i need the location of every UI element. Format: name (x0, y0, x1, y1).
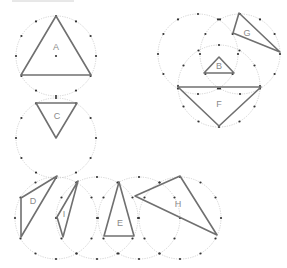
center-dot (55, 55, 57, 57)
point-dot (217, 88, 219, 90)
point-dot (157, 53, 159, 55)
point-dot (60, 237, 62, 239)
point-dot (138, 258, 140, 260)
point-dot (90, 157, 92, 159)
triangle-label-c: C (54, 111, 61, 121)
point-dot (20, 157, 22, 159)
point-dot (199, 53, 201, 55)
point-dot (259, 18, 261, 20)
point-dot (197, 49, 199, 51)
point-dot (219, 18, 221, 20)
triangle-label-i: I (63, 209, 66, 219)
triangle-label-e: E (117, 218, 123, 228)
point-dot (75, 20, 77, 22)
point-dot (158, 252, 160, 254)
point-dot (55, 258, 57, 260)
point-dot (55, 97, 57, 99)
triangle-i (57, 181, 78, 237)
point-dot (158, 181, 160, 183)
point-dot (274, 33, 276, 35)
point-dot (177, 18, 179, 20)
point-dot (182, 105, 184, 107)
point-dot (253, 64, 255, 66)
point-dot (143, 237, 145, 239)
triangle-d (21, 176, 57, 237)
point-dot (35, 172, 37, 174)
point-dot (34, 181, 36, 183)
point-dot (15, 55, 17, 57)
point-dot (96, 176, 98, 178)
triangle-g (233, 13, 280, 52)
point-dot (197, 13, 199, 15)
point-dot (182, 64, 184, 66)
point-dot (199, 181, 201, 183)
point-dot (138, 217, 140, 219)
point-dot (253, 105, 255, 107)
point-dot (90, 35, 92, 37)
point-dot (75, 172, 77, 174)
point-dot (14, 217, 16, 219)
point-dot (239, 93, 241, 95)
point-dot (60, 196, 62, 198)
point-dot (97, 217, 99, 219)
point-dot (143, 196, 145, 198)
point-dot (179, 258, 181, 260)
point-dot (204, 33, 206, 35)
point-dot (162, 33, 164, 35)
point-dot (162, 73, 164, 75)
point-dot (35, 20, 37, 22)
triangles (21, 13, 280, 237)
point-dot (34, 252, 36, 254)
point-dot (131, 196, 133, 198)
point-dot (131, 237, 133, 239)
point-dot (173, 237, 175, 239)
point-dot (238, 120, 240, 122)
point-dot (95, 137, 97, 139)
point-dot (219, 88, 221, 90)
point-dot (102, 196, 104, 198)
triangle-label-a: A (53, 42, 59, 52)
circle-cL (158, 14, 238, 94)
point-dot (90, 196, 92, 198)
point-dot (20, 35, 22, 37)
point-dot (75, 252, 77, 254)
point-dot (15, 137, 17, 139)
point-dot (138, 176, 140, 178)
point-dot (279, 53, 281, 55)
point-dot (274, 73, 276, 75)
triangle-label-f: F (216, 99, 222, 109)
point-dot (214, 196, 216, 198)
triangle-label-d: D (30, 196, 37, 206)
point-dot (75, 90, 77, 92)
point-dot (197, 120, 199, 122)
point-dot (90, 117, 92, 119)
diagram-canvas: ABCDEFGHI (0, 0, 287, 268)
point-dot (199, 252, 201, 254)
point-dot (55, 95, 57, 97)
point-dot (117, 252, 119, 254)
triangle-label-g: G (243, 28, 250, 38)
point-dot (197, 93, 199, 95)
point-dot (217, 18, 219, 20)
point-dot (96, 258, 98, 260)
point-dot (220, 217, 222, 219)
point-dot (237, 53, 239, 55)
point-dot (102, 237, 104, 239)
point-dot (20, 117, 22, 119)
circle-cG (200, 14, 280, 94)
point-dot (90, 237, 92, 239)
triangle-label-h: H (175, 199, 182, 209)
point-dot (218, 44, 220, 46)
point-dot (35, 90, 37, 92)
point-dot (214, 237, 216, 239)
point-dot (95, 55, 97, 57)
point-dot (238, 49, 240, 51)
triangle-label-b: B (216, 61, 222, 71)
